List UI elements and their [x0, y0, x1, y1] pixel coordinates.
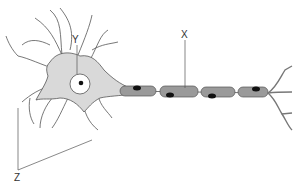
- neuron-diagram: Y X Z: [0, 0, 307, 194]
- label-x: X: [181, 30, 188, 40]
- label-y: Y: [72, 35, 79, 45]
- axon-terminals: [268, 66, 292, 130]
- nucleolus: [79, 81, 84, 86]
- label-lines: [18, 40, 185, 170]
- label-z: Z: [14, 173, 20, 183]
- neuron-illustration: [0, 0, 307, 194]
- myelin-sheaths: [120, 86, 268, 97]
